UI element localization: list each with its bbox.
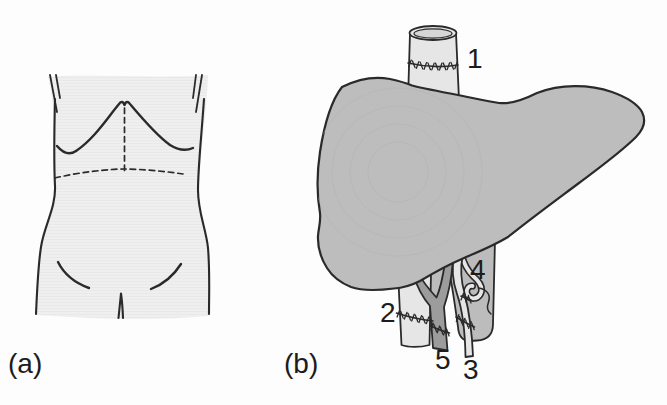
panel-a-label: (a) [8, 350, 42, 378]
medical-figure: (a) (b) 1 2 3 4 5 [0, 0, 667, 405]
illustration-svg [0, 0, 667, 405]
panel-b-liver-illustration [314, 26, 644, 357]
annotation-2-infrahepatic-cava: 2 [380, 299, 396, 327]
torso-body [37, 75, 209, 319]
panel-b-label: (b) [284, 350, 318, 378]
panel-a-torso-illustration [36, 75, 209, 319]
annotation-4-bile-duct: 4 [470, 256, 486, 284]
cava-opening-lumen [414, 29, 452, 38]
annotation-5-portal-vein: 5 [435, 346, 451, 374]
annotation-3-hepatic-artery: 3 [463, 356, 479, 384]
annotation-1-suprahepatic-cava: 1 [467, 45, 483, 73]
